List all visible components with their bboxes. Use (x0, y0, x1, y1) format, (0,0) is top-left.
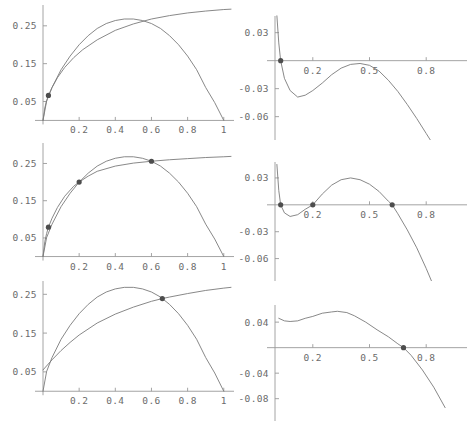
curve-parabola-curve (43, 157, 224, 257)
y-tick-label: -0.03 (238, 83, 269, 94)
data-point-marker (77, 179, 82, 184)
x-tick-label: 0.2 (304, 65, 322, 76)
panel-middle-left-svg: 0.20.40.60.810.050.150.25 (0, 140, 234, 281)
curve-concave-upper-curve (43, 9, 231, 120)
x-tick-label: 0.4 (106, 395, 124, 406)
x-tick-label: 0.6 (142, 395, 160, 406)
x-tick-label: 0.6 (142, 124, 160, 135)
data-point-marker (46, 225, 51, 230)
y-tick-label: 0.15 (13, 58, 37, 69)
x-tick-label: 0.2 (70, 261, 88, 272)
panel-top-right: 0.20.50.80.03-0.03-0.06 (234, 0, 467, 140)
x-tick-label: 0.8 (417, 65, 435, 76)
panel-bottom-left-svg: 0.20.40.60.810.050.150.25 (0, 281, 234, 421)
y-tick-label: 0.05 (13, 96, 37, 107)
x-tick-label: 1 (221, 124, 227, 135)
curve-parabola-curve (43, 287, 224, 391)
y-tick-label: 0.03 (245, 172, 269, 183)
y-tick-label: -0.03 (238, 226, 269, 237)
curve-difference-curve (277, 16, 445, 140)
panel-bottom-right-svg: 0.20.50.80.04-0.04-0.08 (234, 281, 467, 421)
x-tick-label: 0.8 (178, 261, 196, 272)
y-tick-label: -0.06 (238, 111, 269, 122)
data-point-marker (278, 58, 283, 63)
data-point-marker (310, 202, 315, 207)
curve-difference-curve (277, 164, 436, 281)
data-point-marker (149, 159, 154, 164)
x-tick-label: 0.2 (304, 209, 322, 220)
x-tick-label: 0.5 (360, 65, 378, 76)
x-tick-label: 0.8 (178, 395, 196, 406)
y-tick-label: -0.04 (238, 368, 269, 379)
x-tick-label: 0.8 (417, 352, 435, 363)
x-tick-label: 0.8 (417, 209, 435, 220)
x-tick-label: 0.2 (70, 124, 88, 135)
y-tick-label: 0.25 (13, 289, 37, 300)
y-tick-label: 0.25 (13, 158, 37, 169)
y-tick-label: 0.15 (13, 328, 37, 339)
x-tick-label: 0.5 (360, 209, 378, 220)
y-tick-label: 0.15 (13, 195, 37, 206)
data-point-marker (160, 296, 165, 301)
x-tick-label: 1 (221, 395, 227, 406)
y-tick-label: 0.25 (13, 20, 37, 31)
y-tick-label: -0.08 (238, 393, 269, 404)
panel-top-right-svg: 0.20.50.80.03-0.03-0.06 (234, 0, 467, 140)
x-tick-label: 0.4 (106, 261, 124, 272)
data-point-marker (401, 345, 406, 350)
panel-top-left: 0.20.40.60.810.050.150.25 (0, 0, 234, 140)
x-tick-label: 0.4 (106, 124, 124, 135)
x-tick-label: 1 (221, 261, 227, 272)
panel-middle-right-svg: 0.20.50.80.03-0.03-0.06 (234, 140, 467, 281)
curve-concave-upper-curve (43, 287, 231, 370)
figure-grid: 0.20.40.60.810.050.150.25 0.20.50.80.03-… (0, 0, 467, 421)
data-point-marker (46, 93, 51, 98)
x-tick-label: 0.5 (360, 352, 378, 363)
data-point-marker (278, 202, 283, 207)
x-tick-label: 0.6 (142, 261, 160, 272)
curve-concave-upper-curve (43, 156, 231, 256)
panel-middle-left: 0.20.40.60.810.050.150.25 (0, 140, 234, 281)
y-tick-label: 0.03 (245, 27, 269, 38)
y-tick-label: 0.04 (245, 317, 269, 328)
data-point-marker (390, 202, 395, 207)
panel-top-left-svg: 0.20.40.60.810.050.150.25 (0, 0, 234, 140)
y-tick-label: -0.06 (238, 253, 269, 264)
x-tick-label: 0.8 (178, 124, 196, 135)
y-tick-label: 0.05 (13, 232, 37, 243)
curve-parabola-curve (43, 19, 224, 120)
y-tick-label: 0.05 (13, 366, 37, 377)
x-tick-label: 0.2 (70, 395, 88, 406)
panel-bottom-left: 0.20.40.60.810.050.150.25 (0, 281, 234, 421)
panel-bottom-right: 0.20.50.80.04-0.04-0.08 (234, 281, 467, 421)
x-tick-label: 0.2 (304, 352, 322, 363)
panel-middle-right: 0.20.50.80.03-0.03-0.06 (234, 140, 467, 281)
